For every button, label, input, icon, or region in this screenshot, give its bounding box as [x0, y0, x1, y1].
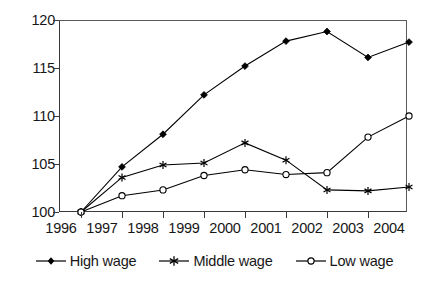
series-line	[81, 143, 409, 212]
series-line	[81, 116, 409, 212]
filled-diamond-icon	[35, 254, 67, 268]
series-low-wage	[78, 113, 412, 215]
y-tick-label: 105	[3, 157, 55, 172]
y-tick-label: 120	[3, 13, 55, 28]
x-tick-label: 1999	[162, 221, 206, 236]
series-line	[81, 32, 409, 212]
x-tick-mark	[286, 212, 287, 218]
x-tick-mark	[245, 212, 246, 218]
y-tick-label: 115	[3, 61, 55, 76]
x-tick-label: 1997	[80, 221, 124, 236]
y-tick-label: 110	[3, 109, 55, 124]
asterisk-icon	[158, 254, 190, 268]
data-point	[160, 187, 166, 193]
data-point	[283, 171, 289, 177]
x-tick-label: 2003	[326, 221, 370, 236]
x-tick-label: 1996	[39, 221, 83, 236]
data-point	[365, 134, 371, 140]
data-point	[365, 54, 372, 61]
x-tick-mark	[163, 212, 164, 218]
data-point	[406, 39, 413, 46]
open-circle-icon	[295, 254, 327, 268]
legend-label: Middle wage	[193, 254, 272, 269]
legend-item-high-wage: High wage	[35, 254, 137, 269]
data-point	[119, 173, 126, 181]
data-point	[283, 38, 290, 45]
x-tick-mark	[327, 212, 328, 218]
data-point	[242, 167, 248, 173]
y-tick-mark	[53, 212, 59, 213]
x-tick-mark	[204, 212, 205, 218]
data-point	[283, 156, 290, 164]
legend-label: Low wage	[330, 254, 394, 269]
line-chart: 120 115 110 105 100 1996 1997 1998 1999 …	[0, 0, 428, 283]
data-point	[201, 172, 207, 178]
data-point	[242, 139, 249, 147]
x-axis: 1996 1997 1998 1999 2000 2001 2002 2003 …	[0, 221, 428, 243]
x-tick-label: 2000	[203, 221, 247, 236]
data-point	[119, 193, 125, 199]
x-tick-label: 2002	[285, 221, 329, 236]
legend-item-low-wage: Low wage	[295, 254, 394, 269]
data-point	[324, 170, 330, 176]
series-layer	[59, 20, 407, 212]
x-tick-mark	[368, 212, 369, 218]
legend-item-middle-wage: Middle wage	[158, 254, 272, 269]
x-tick-mark	[81, 212, 82, 218]
y-tick-label: 100	[3, 205, 55, 220]
x-tick-label: 1998	[121, 221, 165, 236]
data-point	[324, 28, 331, 35]
x-tick-label: 2001	[244, 221, 288, 236]
series-high-wage	[78, 28, 413, 215]
legend-label: High wage	[70, 254, 137, 269]
x-tick-mark	[122, 212, 123, 218]
data-point	[242, 63, 249, 70]
x-tick-label: 2004	[367, 221, 411, 236]
series-middle-wage	[78, 139, 413, 216]
data-point	[406, 113, 412, 119]
chart-legend: High wage Middle wage Low wage	[0, 249, 428, 273]
